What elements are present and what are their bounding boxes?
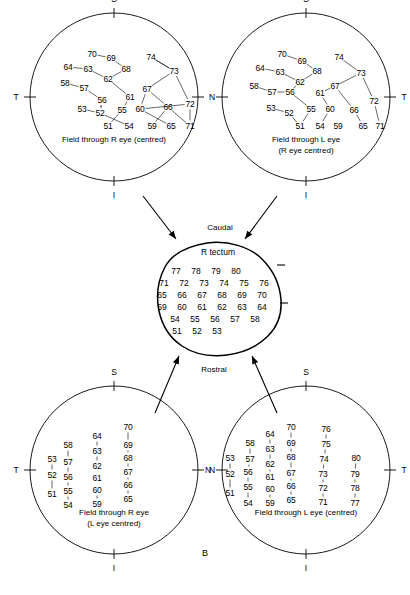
receptive-field-number: 51 bbox=[295, 121, 304, 131]
tectum-number: 73 bbox=[199, 278, 208, 288]
receptive-field-number: 53 bbox=[47, 454, 56, 464]
receptive-field-number: 57 bbox=[245, 454, 254, 464]
receptive-field-number: 64 bbox=[63, 62, 72, 72]
tectum-number: 57 bbox=[230, 314, 239, 324]
tectum-number: 66 bbox=[177, 290, 186, 300]
receptive-field-number: 74 bbox=[146, 52, 155, 62]
receptive-field-number: 55 bbox=[117, 105, 126, 115]
receptive-field-number: 52 bbox=[225, 469, 234, 479]
receptive-field-number: 70 bbox=[277, 49, 286, 59]
receptive-field-number: 67 bbox=[142, 84, 151, 94]
receptive-field-number: 70 bbox=[286, 422, 295, 432]
receptive-field-number: 61 bbox=[92, 473, 101, 483]
receptive-field-number: 75 bbox=[321, 439, 330, 449]
receptive-field-number: 63 bbox=[265, 444, 274, 454]
tectum-number: 79 bbox=[211, 266, 220, 276]
figure-text-overlay: SITN706974646368735857626756617253525560… bbox=[0, 0, 410, 595]
receptive-field-number: 68 bbox=[286, 452, 295, 462]
tectum-number: 55 bbox=[190, 314, 199, 324]
receptive-field-number: 56 bbox=[97, 95, 106, 105]
tectum-number: 78 bbox=[191, 266, 200, 276]
tectum-number: 68 bbox=[217, 290, 226, 300]
receptive-field-number: 53 bbox=[225, 453, 234, 463]
circle-caption-top-right: Field through L eye bbox=[272, 135, 340, 144]
receptive-field-number: 79 bbox=[350, 469, 359, 479]
receptive-field-number: 56 bbox=[63, 472, 72, 482]
tectum-number: 65 bbox=[157, 290, 166, 300]
receptive-field-number: 52 bbox=[284, 108, 293, 118]
tectum-number: 72 bbox=[179, 278, 188, 288]
receptive-field-number: 62 bbox=[103, 74, 112, 84]
axis-label-inferior-top-left: I bbox=[113, 190, 115, 200]
receptive-field-number: 65 bbox=[358, 121, 367, 131]
tectum-number: 60 bbox=[177, 302, 186, 312]
receptive-field-number: 71 bbox=[375, 121, 384, 131]
receptive-field-number: 65 bbox=[286, 495, 295, 505]
receptive-field-number: 73 bbox=[356, 68, 365, 78]
circle-caption-bottom-left: (L eye centred) bbox=[87, 519, 141, 528]
tectum-number: 70 bbox=[257, 290, 266, 300]
tectum-number: 56 bbox=[210, 314, 219, 324]
receptive-field-number: 59 bbox=[265, 498, 274, 508]
receptive-field-number: 55 bbox=[243, 482, 252, 492]
receptive-field-number: 59 bbox=[333, 121, 342, 131]
receptive-field-number: 64 bbox=[265, 429, 274, 439]
receptive-field-number: 60 bbox=[325, 104, 334, 114]
receptive-field-number: 66 bbox=[163, 102, 172, 112]
receptive-field-number: 58 bbox=[60, 78, 69, 88]
tectum-number: 61 bbox=[197, 302, 206, 312]
receptive-field-number: 51 bbox=[225, 488, 234, 498]
axis-label-left-top-left: T bbox=[13, 92, 18, 102]
axis-label-superior-bottom-right: S bbox=[303, 367, 309, 377]
tectum-number: 64 bbox=[257, 302, 266, 312]
receptive-field-number: 58 bbox=[245, 438, 254, 448]
receptive-field-number: 61 bbox=[125, 92, 134, 102]
circle-caption-top-right: (R eye centred) bbox=[278, 146, 333, 155]
receptive-field-number: 51 bbox=[103, 121, 112, 131]
tectum-number: 54 bbox=[170, 314, 179, 324]
axis-label-right-top-left: N bbox=[209, 92, 215, 102]
receptive-field-number: 68 bbox=[123, 453, 132, 463]
tectum-title: R tectum bbox=[201, 247, 235, 257]
receptive-field-number: 71 bbox=[318, 497, 327, 507]
receptive-field-number: 76 bbox=[321, 424, 330, 434]
tectum-number: 69 bbox=[237, 290, 246, 300]
receptive-field-number: 72 bbox=[369, 96, 378, 106]
receptive-field-number: 54 bbox=[315, 121, 324, 131]
receptive-field-number: 62 bbox=[92, 461, 101, 471]
receptive-field-number: 69 bbox=[106, 53, 115, 63]
tectum-number: 59 bbox=[157, 302, 166, 312]
receptive-field-number: 52 bbox=[95, 108, 104, 118]
receptive-field-number: 64 bbox=[255, 63, 264, 73]
receptive-field-number: 61 bbox=[265, 472, 274, 482]
tectum-number: 76 bbox=[259, 278, 268, 288]
receptive-field-number: 51 bbox=[47, 489, 56, 499]
receptive-field-number: 78 bbox=[350, 483, 359, 493]
tectum-number: 52 bbox=[192, 326, 201, 336]
axis-label-superior-top-right: S bbox=[303, 0, 309, 4]
axis-label-left-bottom-left: T bbox=[13, 465, 18, 475]
receptive-field-number: 70 bbox=[123, 422, 132, 432]
circle-caption-top-left: Field through R eye (centred) bbox=[62, 135, 166, 144]
receptive-field-number: 68 bbox=[121, 64, 130, 74]
receptive-field-number: 65 bbox=[123, 494, 132, 504]
tectum-number: 67 bbox=[197, 290, 206, 300]
label-caudal: Caudal bbox=[207, 223, 232, 232]
axis-label-inferior-bottom-left: I bbox=[113, 563, 115, 573]
receptive-field-number: 69 bbox=[297, 56, 306, 66]
receptive-field-number: 66 bbox=[123, 480, 132, 490]
receptive-field-number: 67 bbox=[330, 81, 339, 91]
receptive-field-number: 65 bbox=[166, 121, 175, 131]
tectum-number: 58 bbox=[250, 314, 259, 324]
receptive-field-number: 69 bbox=[123, 440, 132, 450]
tectum-number: 62 bbox=[217, 302, 226, 312]
receptive-field-number: 58 bbox=[63, 440, 72, 450]
receptive-field-number: 58 bbox=[249, 81, 258, 91]
receptive-field-number: 54 bbox=[243, 498, 252, 508]
receptive-field-number: 64 bbox=[92, 431, 101, 441]
receptive-field-number: 57 bbox=[63, 457, 72, 467]
receptive-field-number: 73 bbox=[318, 469, 327, 479]
tectum-number: 71 bbox=[159, 278, 168, 288]
panel-letter: B bbox=[202, 548, 208, 558]
receptive-field-number: 60 bbox=[265, 484, 274, 494]
